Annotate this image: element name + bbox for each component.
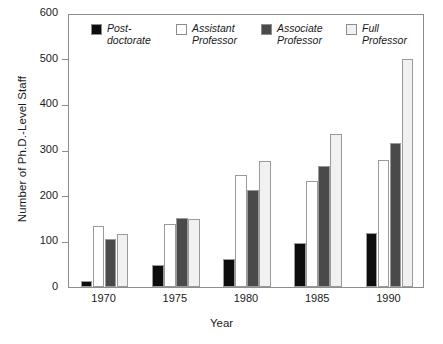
x-tick-label-1970: 1970 (69, 292, 139, 304)
bar-1975-series-0 (152, 265, 164, 287)
y-tick-label: 400 (2, 97, 58, 109)
bar-1970-series-3 (117, 234, 129, 287)
bar-1975-series-1 (164, 224, 176, 287)
bar-1975-series-3 (188, 219, 200, 287)
bar-group-1990 (366, 15, 414, 287)
y-tick-label: 500 (2, 52, 58, 64)
bar-1990-series-1 (378, 160, 390, 287)
x-tick-label-1985: 1985 (282, 292, 352, 304)
plot-area: Post- doctorateAssistant ProfessorAssoci… (68, 14, 424, 288)
bar-group-1975 (152, 15, 200, 287)
bar-1985-series-2 (318, 166, 330, 287)
chart-figure: Number of Ph.D.-Level Staff Year 0100200… (0, 0, 443, 344)
bar-group-1985 (294, 15, 342, 287)
bar-1975-series-2 (176, 218, 188, 287)
bar-group-1970 (81, 15, 129, 287)
bar-1980-series-2 (247, 190, 259, 287)
y-tick-label: 0 (2, 280, 58, 292)
bar-1985-series-0 (294, 243, 306, 287)
bar-1970-series-0 (81, 281, 93, 287)
bar-1985-series-3 (330, 134, 342, 287)
x-tick-label-1975: 1975 (140, 292, 210, 304)
bar-1970-series-1 (93, 226, 105, 287)
bar-1990-series-2 (390, 143, 402, 287)
x-tick-label-1990: 1990 (353, 292, 423, 304)
x-axis-label: Year (0, 317, 443, 329)
x-tick-label-1980: 1980 (211, 292, 281, 304)
legend-swatch-3 (346, 24, 357, 35)
bar-1980-series-3 (259, 161, 271, 287)
bar-1985-series-1 (306, 181, 318, 287)
bar-group-1980 (223, 15, 271, 287)
bar-1990-series-0 (366, 233, 378, 287)
y-tick-label: 100 (2, 234, 58, 246)
bar-1990-series-3 (402, 59, 414, 287)
y-tick-label: 600 (2, 6, 58, 18)
bar-1980-series-0 (223, 259, 235, 287)
bar-1980-series-1 (235, 175, 247, 287)
bar-1970-series-2 (105, 239, 117, 287)
y-tick-label: 300 (2, 143, 58, 155)
y-tick-label: 200 (2, 189, 58, 201)
